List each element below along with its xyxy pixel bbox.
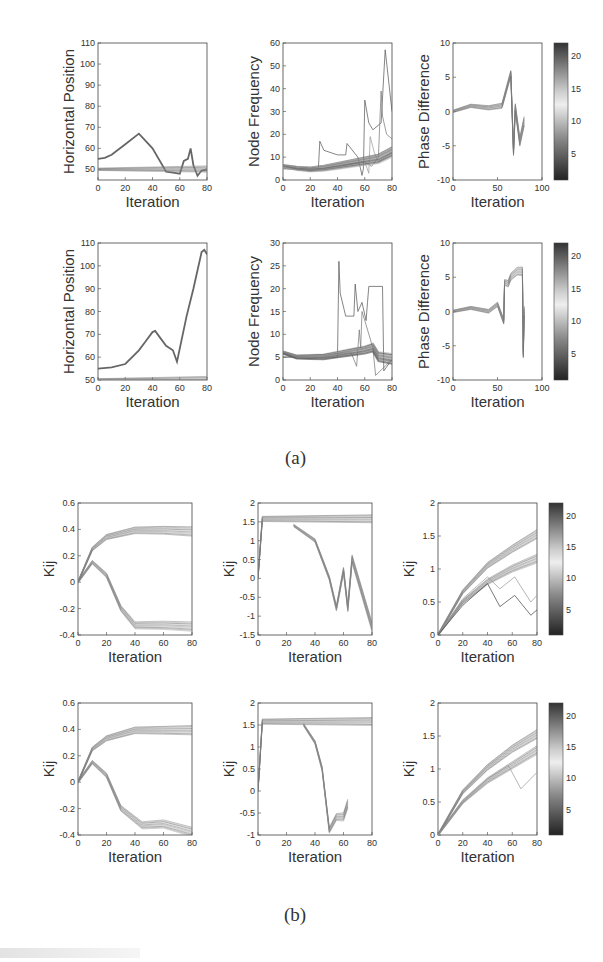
x-tick-label: 60 [158,638,168,648]
x-tick-label: 20 [120,183,130,193]
colorbar-tick-label: 15 [566,542,576,552]
y-tick-label: -10 [437,375,450,385]
colorbar-tick-label: 20 [571,51,581,61]
colorbar-tick-label: 5 [566,605,571,615]
y-tick-label: 0 [445,107,450,117]
y-tick-label: 10 [270,152,280,162]
colorbar-tick-label: 10 [571,316,581,326]
y-tick-label: 2 [430,498,435,508]
x-tick-label: 40 [332,383,342,393]
x-axis-label: Iteration [310,393,364,410]
y-tick-label: 30 [270,107,280,117]
y-tick-label: 110 [81,238,95,248]
x-tick-label: 0 [95,383,100,393]
chart-b-row1-kij-c: 02040608000.511.52IterationKij5101520 [380,495,595,675]
y-tick-label: 0.4 [62,724,75,734]
chart-a-row1-phase: 050100-10-50510IterationPhase Difference… [395,35,600,220]
y-axis-label: Horizontal Position [60,249,77,374]
chart-plot: 02040608000.511.52IterationKij5101520 [380,695,595,875]
y-tick-label: 2 [250,498,255,508]
y-axis-label: Kij [40,761,57,778]
x-axis-label: Iteration [125,393,179,410]
x-tick-label: 40 [147,383,157,393]
y-tick-label: 0.5 [422,597,435,607]
y-tick-label: 30 [270,238,280,248]
colorbar-tick-label: 15 [566,742,576,752]
y-tick-label: 1 [430,764,435,774]
chart-plot: 0204060800102030405060IterationNode Freq… [225,35,400,220]
caption-b: (b) [284,904,306,926]
x-tick-label: 60 [360,183,370,193]
chart-plot: 020406080-0.4-0.200.20.40.6IterationKij [20,495,200,675]
y-tick-label: -0.5 [239,592,255,602]
x-tick-label: 60 [507,638,517,648]
y-tick-label: -1 [247,611,255,621]
x-tick-label: 20 [458,638,468,648]
x-tick-label: 40 [332,183,342,193]
colorbar-tick-label: 5 [571,149,576,159]
x-tick-label: 20 [305,383,315,393]
y-tick-label: 80 [85,101,95,111]
y-tick-label: 50 [85,375,95,385]
y-axis-label: Node Frequency [245,56,262,167]
chart-plot: 02040608000.511.52IterationKij5101520 [380,495,595,675]
x-tick-label: 20 [305,183,315,193]
x-tick-label: 20 [101,638,111,648]
colorbar-tick-label: 15 [571,84,581,94]
chart-plot: 020406080051015202530IterationNode Frequ… [225,235,400,420]
x-tick-label: 0 [435,838,440,848]
x-axis-label: Iteration [460,848,514,865]
y-tick-label: 5 [445,72,450,82]
y-tick-label: 70 [85,329,95,339]
colorbar [549,703,563,835]
plot-frame [98,243,207,380]
y-tick-label: 100 [80,261,95,271]
y-tick-label: 20 [270,284,280,294]
y-tick-label: 90 [85,284,95,294]
colorbar [554,243,568,380]
y-tick-label: 1.5 [422,731,435,741]
y-tick-label: 60 [85,352,95,362]
plot-frame [453,43,542,180]
y-tick-label: 0 [430,830,435,840]
x-axis-label: Iteration [288,648,342,665]
chart-plot: 020406080-1-0.500.511.52IterationKij [200,695,380,875]
y-tick-label: 70 [85,122,95,132]
x-tick-label: 0 [280,183,285,193]
x-tick-label: 0 [450,383,455,393]
chart-b-row1-kij-a: 020406080-0.4-0.200.20.40.6IterationKij [20,495,200,675]
plot-frame [78,703,192,835]
x-tick-label: 0 [255,838,260,848]
x-tick-label: 80 [532,638,542,648]
x-tick-label: 40 [310,838,320,848]
x-tick-label: 40 [130,638,140,648]
colorbar-tick-label: 10 [566,573,576,583]
y-tick-label: 0 [275,175,280,185]
y-tick-label: -0.4 [59,630,75,640]
y-tick-label: 60 [270,38,280,48]
x-tick-label: 50 [492,383,502,393]
y-axis-label: Kij [400,761,417,778]
x-tick-label: 0 [75,638,80,648]
y-tick-label: 0.6 [62,698,75,708]
y-axis-label: Phase Difference [415,54,432,169]
y-tick-label: 0.2 [62,551,75,561]
y-tick-label: 0.5 [422,797,435,807]
y-tick-label: 1 [250,536,255,546]
colorbar-tick-label: 10 [566,773,576,783]
caption-a: (a) [285,447,306,469]
y-tick-label: 50 [85,164,95,174]
chart-a-row1-position: 0204060805060708090100110IterationHorizo… [40,35,215,220]
chart-plot: 020406080-1.5-1-0.500.511.52IterationKij [200,495,380,675]
chart-a-row1-frequency: 0204060800102030405060IterationNode Freq… [225,35,400,220]
x-tick-label: 0 [255,638,260,648]
y-tick-label: 15 [270,307,280,317]
truncated-caption-text [0,948,140,958]
x-tick-label: 20 [281,838,291,848]
x-axis-label: Iteration [125,193,179,210]
plot-frame [98,43,207,180]
chart-b-row1-kij-b: 020406080-1.5-1-0.500.511.52IterationKij [200,495,380,675]
x-tick-label: 80 [532,838,542,848]
y-axis-label: Kij [40,561,57,578]
y-tick-label: -0.5 [239,808,255,818]
